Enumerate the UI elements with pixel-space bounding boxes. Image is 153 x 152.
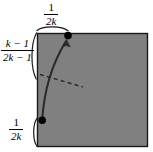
lower-point-dot — [38, 116, 46, 124]
label-top-denominator: 2k — [44, 16, 58, 28]
bottom-brace — [34, 119, 37, 147]
label-top-numerator: 1 — [44, 2, 58, 14]
label-top-fraction: 1 2k — [44, 2, 58, 27]
upper-point-dot — [64, 32, 72, 40]
label-bottom-denominator: 2k — [9, 131, 23, 143]
label-bottom-numerator: 1 — [9, 117, 23, 129]
label-bottom-fraction: 1 2k — [9, 117, 23, 142]
math-figure: 1 2k k − 1 2k − 1 1 2k — [0, 0, 153, 152]
label-left-denominator: 2k − 1 — [1, 52, 34, 64]
label-left-fraction: k − 1 2k − 1 — [1, 38, 34, 63]
top-brace — [37, 27, 68, 31]
label-left-numerator: k − 1 — [1, 38, 34, 50]
gray-square — [38, 34, 148, 147]
